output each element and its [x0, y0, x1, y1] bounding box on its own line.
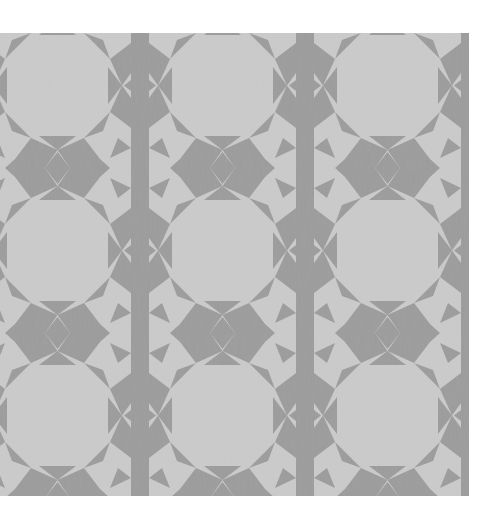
- star-pattern-graphic: [0, 33, 469, 496]
- tiled-pattern: [0, 33, 469, 496]
- pattern-image: [0, 33, 469, 496]
